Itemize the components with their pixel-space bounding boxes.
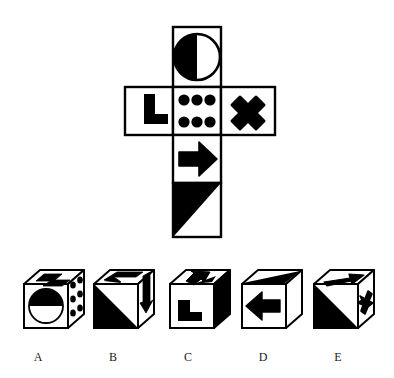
net-face-triangle xyxy=(173,183,221,237)
option-cube-b[interactable] xyxy=(94,270,154,328)
option-label-c: C xyxy=(178,350,198,365)
net-face-right-arrow xyxy=(173,135,221,183)
option-label-e: E xyxy=(328,350,348,365)
net-face-x-cross xyxy=(221,87,275,135)
cube-folding-puzzle xyxy=(0,0,394,378)
option-cube-d[interactable] xyxy=(242,270,302,328)
option-label-d: D xyxy=(253,350,273,365)
half-circle-icon xyxy=(174,34,220,80)
net-face-six-dots xyxy=(173,87,221,135)
option-label-b: B xyxy=(103,350,123,365)
option-cube-e[interactable] xyxy=(314,270,374,328)
option-label-a: A xyxy=(28,350,48,365)
net-face-half-filled-circle xyxy=(173,27,221,87)
option-cube-c[interactable] xyxy=(170,270,230,328)
net-face-l-shape xyxy=(125,87,173,135)
half-circle-icon xyxy=(29,289,63,323)
option-cube-a[interactable] xyxy=(24,270,84,328)
